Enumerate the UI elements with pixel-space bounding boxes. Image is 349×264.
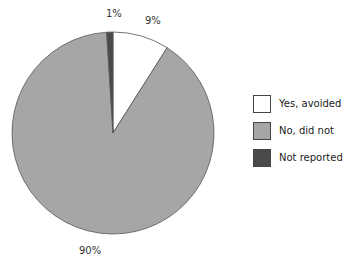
- legend-swatch-dark: [253, 149, 271, 167]
- legend-item-not-reported: Not reported: [253, 146, 343, 169]
- slice-label-not-reported: 1%: [106, 8, 122, 19]
- legend-swatch-white: [253, 95, 271, 113]
- legend-label: Not reported: [279, 152, 343, 163]
- legend-label: Yes, avoided: [279, 98, 341, 109]
- slice-label-yes-avoided: 9%: [145, 15, 161, 26]
- legend-item-no-did-not: No, did not: [253, 119, 343, 142]
- legend-swatch-gray: [253, 122, 271, 140]
- legend-label: No, did not: [279, 125, 334, 136]
- legend-item-yes-avoided: Yes, avoided: [253, 92, 343, 115]
- slice-label-no-did-not: 90%: [79, 245, 101, 256]
- legend: Yes, avoided No, did not Not reported: [253, 92, 343, 173]
